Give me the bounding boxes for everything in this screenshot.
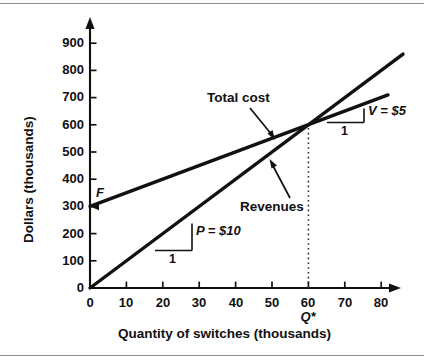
breakeven-quantity-text: Q* [300,309,315,324]
fixed-cost-label: F [96,186,104,199]
total-cost-leader-arrow [250,108,275,140]
breakeven-quantity-label: Q* [293,310,323,323]
x-tick-label-10: 10 [111,296,141,309]
x-tick-label-40: 40 [221,296,251,309]
total-cost-label: Total cost [207,91,270,105]
y-axis [85,17,96,288]
x-axis [90,282,401,293]
y-tick-label-100: 100 [48,254,84,267]
revenues-label: Revenues [240,200,304,214]
total-cost-line [90,95,388,206]
y-tick-label-300: 300 [48,199,84,212]
y-tick-label-800: 800 [48,63,84,76]
x-tick-label-0: 0 [75,296,105,309]
y-tick-label-700: 700 [48,90,84,103]
price-slope-run-label: 1 [169,253,176,266]
price-slope-label: P = $10 [196,224,241,237]
x-tick-label-30: 30 [184,296,214,309]
x-tick-label-50: 50 [257,296,287,309]
x-axis-title: Quantity of switches (thousands) [118,327,331,341]
y-tick-label-900: 900 [48,36,84,49]
x-tick-label-60: 60 [293,296,323,309]
x-tick-label-70: 70 [330,296,360,309]
fixed-cost-text: F [96,185,104,200]
y-axis-title: Dollars (thousands) [22,116,36,243]
figure-container: 900 800 700 600 500 400 300 200 100 0 0 … [0,0,424,362]
price-slope-text: P = $10 [196,223,241,238]
variable-cost-slope-label: V = $5 [368,104,406,117]
x-tick-label-20: 20 [148,296,178,309]
y-tick-label-500: 500 [48,145,84,158]
variable-cost-run-label: 1 [341,125,348,138]
x-tick-label-80: 80 [366,296,396,309]
y-tick-label-600: 600 [48,118,84,131]
y-tick-label-400: 400 [48,172,84,185]
y-tick-label-200: 200 [48,227,84,240]
variable-cost-slope-text: V = $5 [368,103,406,118]
y-tick-label-0: 0 [48,281,84,294]
revenues-leader-arrow [270,159,291,198]
